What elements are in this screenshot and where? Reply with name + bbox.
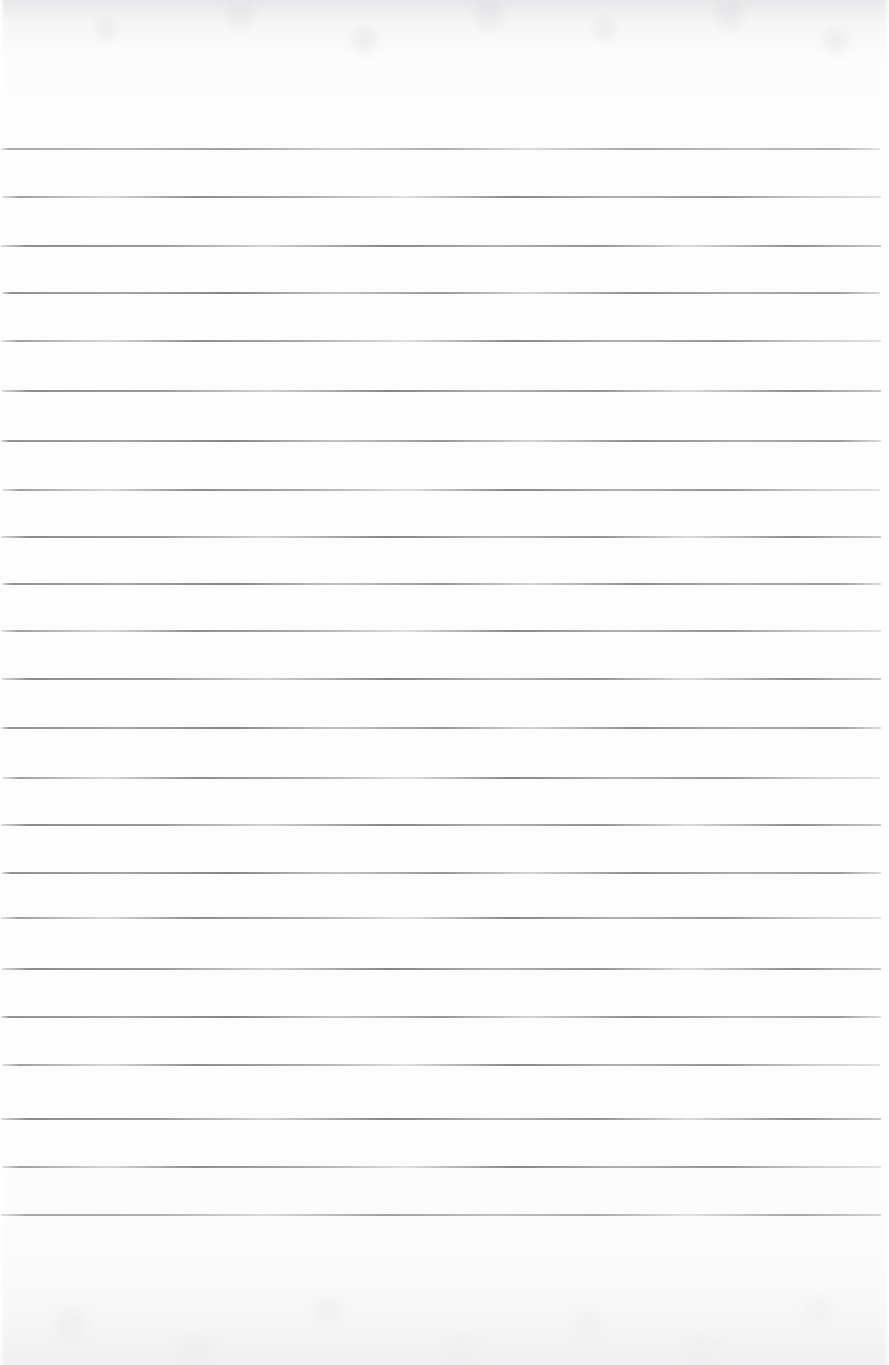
ruled-line [1, 1214, 881, 1216]
ruled-line [1, 340, 881, 342]
ruled-line [2, 678, 881, 680]
ruled-line [1, 630, 881, 632]
ruled-line [2, 1166, 881, 1168]
scanned-page [0, 0, 889, 1365]
ruled-line [2, 489, 880, 491]
ruled-line [2, 292, 880, 294]
ruled-line-group [0, 0, 889, 1365]
ruled-line [1, 440, 881, 442]
ruled-line [2, 1064, 880, 1066]
ruled-line [2, 872, 881, 874]
ruled-line [2, 968, 881, 970]
ruled-line [1, 917, 881, 919]
ruled-line [1, 536, 881, 538]
ruled-line [1, 1016, 881, 1018]
ruled-line [1, 245, 881, 247]
ruled-line [2, 777, 880, 779]
ruled-line [1, 727, 881, 729]
ruled-line [1, 824, 881, 826]
ruled-line [2, 196, 881, 198]
ruled-line [2, 390, 881, 392]
ruled-line [1, 148, 880, 150]
ruled-line [1, 1118, 881, 1120]
ruled-line [2, 583, 881, 585]
